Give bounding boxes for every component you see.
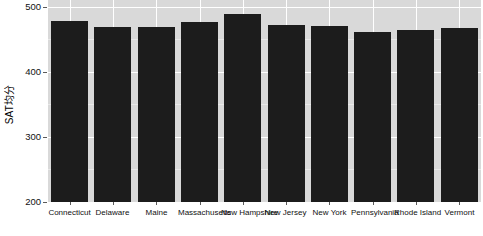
x-axis-tick-mark — [329, 202, 330, 205]
y-axis-tick-mark — [43, 72, 47, 73]
bar — [51, 21, 88, 202]
x-axis-tick-label: Pennsylvania — [351, 208, 394, 218]
x-axis-tick-label: Delaware — [91, 208, 134, 218]
y-axis-tick: 400 — [25, 66, 48, 78]
bar — [94, 27, 131, 202]
x-axis-tick-label: Connecticut — [48, 208, 91, 218]
y-axis-title-label: SAT均分 — [2, 84, 17, 124]
y-axis-tick-label: 500 — [25, 1, 41, 13]
x-axis-tick-label: New Jersey — [264, 208, 307, 218]
y-axis-tick-mark — [43, 137, 47, 138]
y-axis-tick-label: 300 — [25, 131, 41, 143]
x-axis-tick-label: Rhode Island — [394, 208, 437, 218]
bar — [441, 28, 478, 202]
y-axis-tick: 200 — [25, 196, 48, 208]
y-axis-tick-mark — [43, 7, 47, 8]
bar — [181, 22, 218, 202]
bar — [354, 32, 391, 202]
x-axis-tick-mark — [243, 202, 244, 205]
bar — [268, 25, 305, 202]
bar-chart: SAT均分 200300400500 ConnecticutDelawareMa… — [0, 0, 483, 236]
x-axis-tick-label: Maine — [135, 208, 178, 218]
x-axis-tick-mark — [286, 202, 287, 205]
x-axis-tick-label: Massachusetts — [178, 208, 221, 218]
y-axis-tick-mark — [43, 202, 47, 203]
x-axis-tick-mark — [113, 202, 114, 205]
y-axis-tick-label: 200 — [25, 196, 41, 208]
bar — [138, 27, 175, 202]
x-axis-tick-label: New York — [308, 208, 351, 218]
x-axis-tick-mark — [200, 202, 201, 205]
y-axis-tick-label: 400 — [25, 66, 41, 78]
bar — [224, 14, 261, 202]
y-axis: 200300400500 — [16, 0, 48, 208]
x-axis-tick-label: Vermont — [438, 208, 481, 218]
bar — [311, 26, 348, 202]
y-axis-tick: 500 — [25, 1, 48, 13]
x-axis-tick-mark — [373, 202, 374, 205]
x-axis: ConnecticutDelawareMaineMassachusettsNew… — [48, 202, 481, 236]
x-axis-tick-mark — [70, 202, 71, 205]
x-axis-tick-mark — [416, 202, 417, 205]
plot-panel — [48, 0, 481, 202]
x-axis-tick-mark — [459, 202, 460, 205]
x-axis-tick-mark — [156, 202, 157, 205]
x-axis-tick-label: New Hampshire — [221, 208, 264, 218]
y-axis-tick: 300 — [25, 131, 48, 143]
bar — [397, 30, 434, 202]
